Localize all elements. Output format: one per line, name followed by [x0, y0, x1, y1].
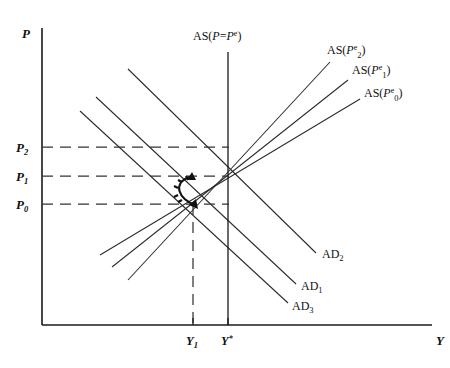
p1-axis-label: P1 — [16, 169, 28, 186]
adjustment-barb-3 — [174, 195, 178, 197]
as0-curve — [100, 99, 360, 255]
ad-curve-labels-group: AD2 AD1 AD3 — [292, 247, 344, 315]
output-level-labels-group: Y1 Y* — [186, 334, 234, 350]
as-ad-diagram: P Y P2 P1 P0 Y1 Y* AS(P=Pe) — [0, 0, 450, 368]
x-axis-ticks-group — [193, 318, 228, 325]
ad-curves-group — [80, 69, 316, 303]
as-curves-group — [100, 62, 360, 280]
as0-curve-label: AS(Pe0) — [364, 86, 403, 103]
y-axis-label: P — [22, 26, 31, 41]
diagram-canvas: P Y P2 P1 P0 Y1 Y* AS(P=Pe) — [0, 0, 450, 368]
adjustment-barb-2 — [174, 186, 178, 188]
y1-axis-label: Y1 — [186, 334, 198, 350]
as-curve-labels-group: AS(Pe2) AS(Pe1) AS(Pe0) — [327, 43, 403, 103]
adjustment-barb-1 — [178, 180, 182, 182]
p0-axis-label: P0 — [16, 197, 29, 214]
as2-curve-label: AS(Pe2) — [327, 43, 366, 60]
price-guides-group — [42, 147, 229, 325]
x-axis-label: Y — [436, 333, 445, 348]
ad2-curve — [128, 69, 316, 253]
ad3-curve — [80, 111, 288, 303]
ad1-curve-label: AD1 — [301, 279, 323, 295]
ystar-axis-label: Y* — [221, 334, 234, 348]
as1-curve-label: AS(Pe1) — [352, 63, 391, 80]
ad3-curve-label: AD3 — [292, 299, 314, 315]
as2-curve — [128, 62, 330, 280]
ad2-curve-label: AD2 — [322, 247, 344, 263]
vertical-as-curve-label: AS(P=Pe) — [193, 29, 241, 43]
adjustment-barb-4 — [178, 200, 182, 202]
p2-axis-label: P2 — [16, 140, 29, 157]
price-level-labels-group: P2 P1 P0 — [16, 140, 29, 214]
